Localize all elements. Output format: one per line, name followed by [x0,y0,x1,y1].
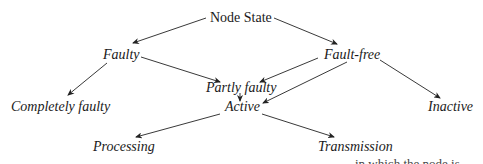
node-active: Active [225,99,260,115]
edge-faultfree-inactive [380,60,440,98]
node-transmission: Transmission [318,139,393,155]
cropped-caption-fragment: in which the node is [355,156,460,164]
node-processing: Processing [93,139,155,155]
edge-active-transmission [262,114,334,137]
node-faulty: Faulty [103,47,140,63]
node-completely-faulty: Completely faulty [11,99,110,115]
node-inactive: Inactive [428,99,473,115]
edge-faultfree-partly [260,58,318,82]
edge-active-processing [136,114,220,137]
node-fault-free: Fault-free [324,47,380,63]
node-partly-faulty: Partly faulty [206,80,276,96]
edge-root-faultfree [274,18,337,44]
node-state-root: Node State [210,10,272,26]
edge-faulty-partly [141,57,220,82]
edge-faulty-completely [68,63,107,95]
edge-root-faulty [133,18,206,43]
